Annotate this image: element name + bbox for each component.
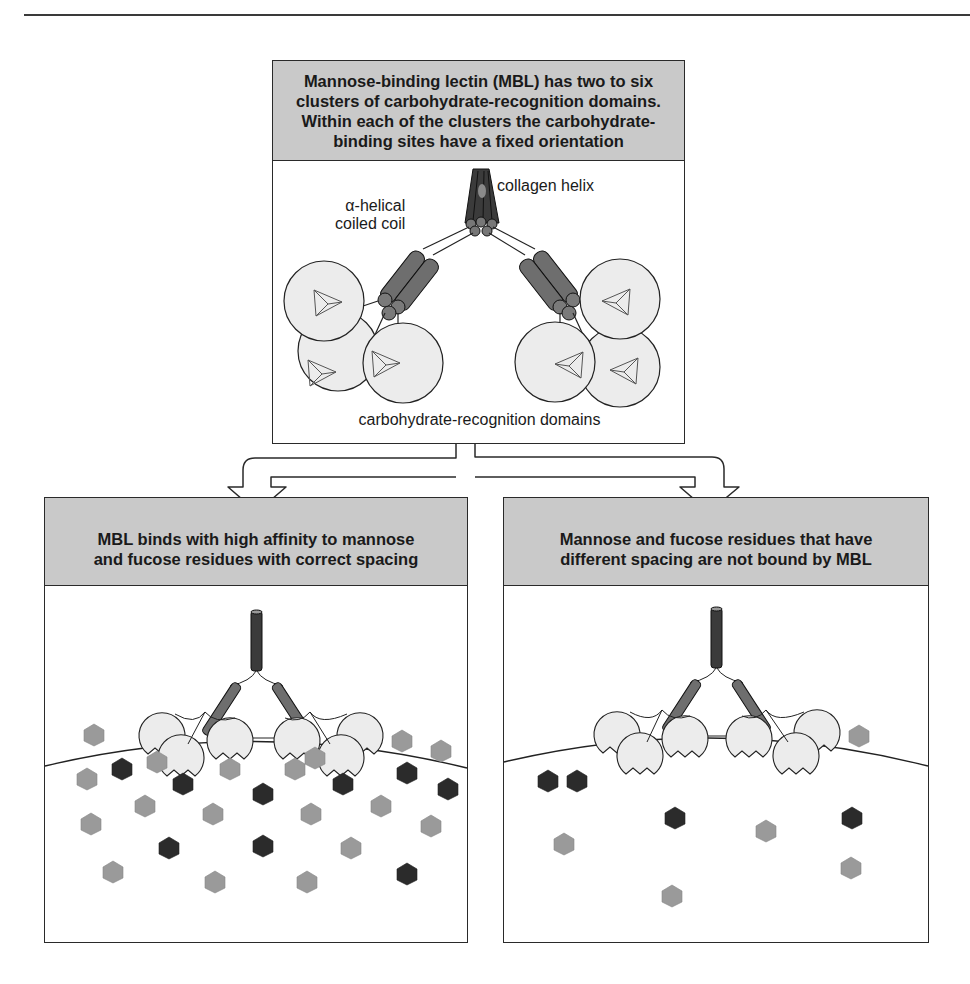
unbound-header: Mannose and fucose residues that have di… (504, 498, 928, 586)
bound-illustration (45, 586, 469, 944)
bound-header: MBL binds with high affinity to mannose … (45, 498, 467, 586)
mbl-structure-caption: Mannose-binding lectin (MBL) has two to … (296, 71, 661, 151)
bound-panel: MBL binds with high affinity to mannose … (44, 497, 468, 943)
mbl-structure-panel: Mannose-binding lectin (MBL) has two to … (272, 60, 685, 444)
unbound-panel: Mannose and fucose residues that have di… (503, 497, 929, 943)
coiled-coil-right-icon (517, 248, 581, 320)
mbl-structure-header: Mannose-binding lectin (MBL) has two to … (273, 61, 684, 161)
collagen-helix-icon (465, 169, 499, 236)
bound-caption: MBL binds with high affinity to mannose … (94, 529, 419, 569)
coiled-coil-label: α-helical coiled coil (335, 197, 405, 233)
coiled-coil-left-icon (378, 248, 442, 320)
crd-label: carbohydrate-recognition domains (273, 411, 686, 429)
unbound-illustration (504, 586, 930, 944)
unbound-caption: Mannose and fucose residues that have di… (560, 529, 873, 569)
collagen-helix-label: collagen helix (497, 177, 594, 195)
